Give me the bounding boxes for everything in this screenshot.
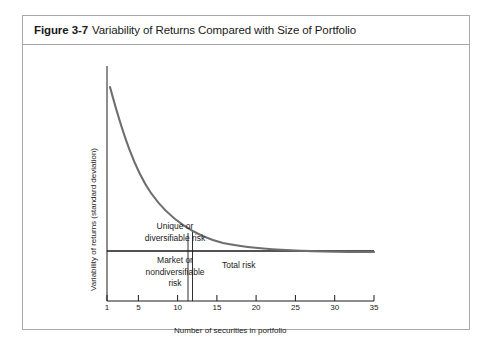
- x-tick-label-30: 30: [323, 303, 347, 312]
- chart-plot-area: Variability of returns (standard deviati…: [23, 45, 469, 329]
- annotation-total-risk: Total risk: [222, 260, 282, 272]
- annotation-unique-risk: Unique or diversifiable risk: [131, 221, 219, 244]
- x-tick-label-35: 35: [362, 303, 386, 312]
- annotation-market-risk: Market or nondiversifiable risk: [131, 255, 219, 290]
- x-tick-label-10: 10: [166, 303, 190, 312]
- figure-title: Variability of Returns Compared with Siz…: [92, 24, 356, 36]
- x-tick-label-25: 25: [283, 303, 307, 312]
- x-tick-label-20: 20: [244, 303, 268, 312]
- figure-container: Figure 3-7 Variability of Returns Compar…: [22, 15, 470, 330]
- figure-number: Figure 3-7: [34, 24, 88, 36]
- x-tick-label-1: 1: [95, 303, 119, 312]
- y-axis-title: Variability of returns (standard deviati…: [89, 148, 98, 291]
- figure-caption: Figure 3-7 Variability of Returns Compar…: [23, 16, 469, 45]
- x-axis-ticks: [107, 295, 374, 301]
- x-axis-title: Number of securities in portfolio: [174, 326, 287, 335]
- x-tick-label-15: 15: [205, 303, 229, 312]
- x-tick-label-5: 5: [126, 303, 150, 312]
